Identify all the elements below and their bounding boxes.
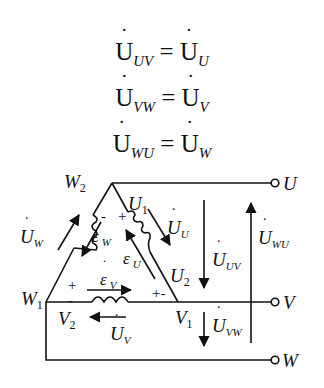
- svg-text:εV: εV: [100, 270, 118, 291]
- terminal-u-label: U: [283, 173, 298, 194]
- svg-text:˙: ˙: [114, 311, 119, 328]
- label-w2: W2: [64, 171, 86, 195]
- label-phase-uu: UU ˙: [167, 205, 190, 240]
- polarity-v-minus: -: [68, 292, 73, 308]
- polarity-u-plus: +: [118, 208, 126, 224]
- label-line-uuv: UUV ˙: [212, 237, 242, 272]
- svg-text:˙: ˙: [262, 215, 267, 232]
- polarity-v-plus: +: [68, 277, 76, 293]
- svg-text:εW: εW: [92, 227, 112, 248]
- label-line-uwu: UWU ˙: [258, 215, 290, 250]
- svg-text:˙: ˙: [171, 205, 176, 222]
- svg-text:˙: ˙: [125, 236, 130, 252]
- svg-text:˙: ˙: [94, 214, 99, 230]
- winding-u-coil: [128, 211, 150, 252]
- label-phase-uw: UW ˙: [20, 214, 44, 249]
- svg-text:˙: ˙: [216, 303, 221, 320]
- svg-text:˙: ˙: [102, 257, 107, 273]
- polarity-w-minus: -: [101, 208, 106, 224]
- label-v2: V2: [58, 308, 76, 332]
- arrow-phase-uw: [58, 215, 79, 250]
- label-v1: V1: [175, 307, 193, 331]
- terminal-w-circle: [271, 356, 279, 364]
- label-u2: U2: [170, 265, 190, 289]
- terminal-w-label: W: [282, 350, 300, 371]
- polarity-uv-junction: +-: [152, 285, 165, 301]
- label-emf-ev: εV ˙: [100, 257, 118, 291]
- delta-connection-diagram: W2 U1 U2 W1 V2 V1 U V W UW ˙ UU ˙ UV ˙ ε…: [0, 0, 324, 388]
- terminal-v-circle: [271, 298, 279, 306]
- svg-text:˙: ˙: [216, 237, 221, 254]
- terminal-u-circle: [271, 179, 279, 187]
- label-u1: U1: [128, 193, 148, 217]
- winding-v-coil: [92, 297, 128, 302]
- label-line-uvw: UVW ˙: [212, 303, 242, 338]
- label-w1: W1: [21, 288, 43, 312]
- svg-text:˙: ˙: [24, 214, 29, 231]
- terminal-v-label: V: [283, 292, 297, 313]
